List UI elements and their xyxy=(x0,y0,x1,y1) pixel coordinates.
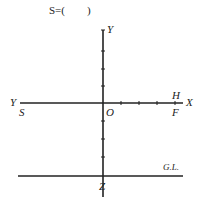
label-x: X xyxy=(186,97,193,108)
label-f: F xyxy=(172,107,179,118)
label-ground-line: G.L. xyxy=(163,163,179,172)
answer-blank: S=( ) xyxy=(49,5,91,16)
label-s: S xyxy=(19,107,25,118)
label-o: O xyxy=(106,107,114,118)
label-y-top: Y xyxy=(107,24,113,35)
label-z: Z xyxy=(99,181,105,192)
label-h: H xyxy=(172,90,180,101)
label-y-left: Y xyxy=(10,97,16,108)
